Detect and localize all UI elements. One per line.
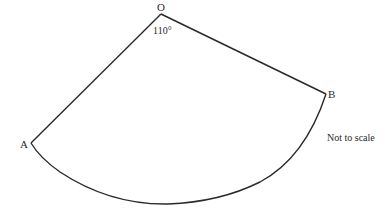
sector-diagram: O 110° A B Not to scale xyxy=(0,0,390,212)
angle-label: 110° xyxy=(153,26,172,36)
sector-shape xyxy=(0,0,390,212)
label-point-a: A xyxy=(20,139,28,150)
label-point-o: O xyxy=(157,2,165,13)
radius-OB xyxy=(161,14,326,94)
arc-AB xyxy=(31,94,326,204)
not-to-scale-note: Not to scale xyxy=(327,133,375,143)
label-point-b: B xyxy=(328,89,335,100)
radius-OA xyxy=(31,14,161,143)
